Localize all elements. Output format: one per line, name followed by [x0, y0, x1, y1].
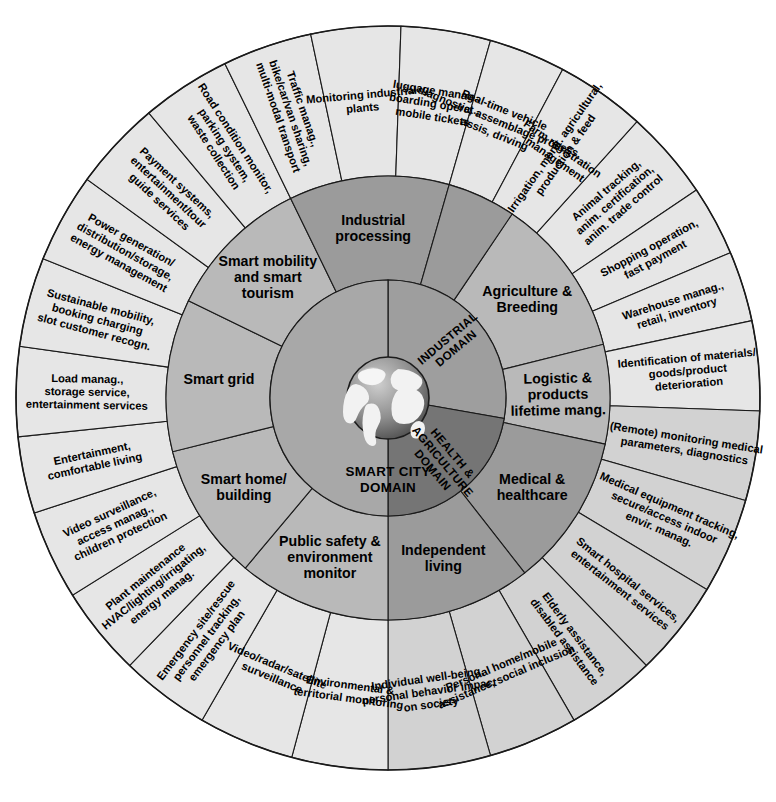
middle-label-smart-grid: Smart grid	[183, 371, 254, 387]
svg-text:Smart grid: Smart grid	[183, 371, 254, 387]
svg-text:Medical &healthcare: Medical &healthcare	[497, 471, 568, 503]
iot-domains-wheel: Irrigation, monit. agricultural,producti…	[0, 0, 776, 802]
svg-text:Industrialprocessing: Industrialprocessing	[335, 211, 411, 243]
middle-label-medical-healthcare: Medical &healthcare	[497, 471, 568, 503]
middle-label-industrial-processing: Industrialprocessing	[335, 211, 411, 243]
